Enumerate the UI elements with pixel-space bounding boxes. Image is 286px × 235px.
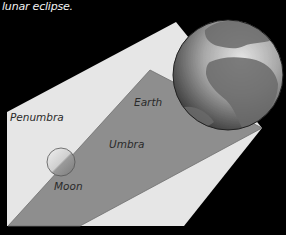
moon <box>47 148 75 176</box>
caption-text: lunar eclipse. <box>2 0 73 13</box>
label-moon: Moon <box>54 180 83 192</box>
label-umbra: Umbra <box>109 138 144 150</box>
label-earth: Earth <box>134 96 162 108</box>
label-penumbra: Penumbra <box>10 111 64 123</box>
